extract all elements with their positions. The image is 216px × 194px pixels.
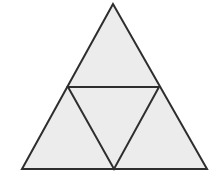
- triangle-diagram: [0, 0, 216, 194]
- diagram-canvas: [0, 0, 216, 194]
